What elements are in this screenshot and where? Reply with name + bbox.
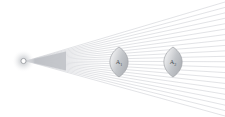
aperture-label-subscript: 2 (174, 62, 176, 67)
point-light-source (12, 50, 35, 73)
source-disc-icon (21, 58, 26, 63)
diagram-canvas: A1A2 (0, 0, 225, 117)
ray-fan-diagram: A1A2 (0, 0, 225, 117)
aperture-label-subscript: 1 (120, 62, 122, 67)
